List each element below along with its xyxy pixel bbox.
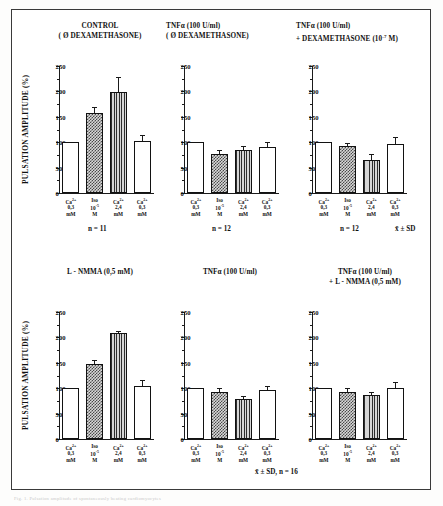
x-label-line-3: mM [232,211,256,217]
error-bar-cap [265,142,270,143]
x-label-line-1: Ca2+ [59,197,83,205]
x-axis [184,439,279,440]
x-axis-label-1: Iso10-5M [83,443,107,463]
bar [187,142,204,193]
panel-title-line: TNFα (100 U/ml) [290,268,440,278]
y-tick-minor [182,79,184,80]
y-tick-label: 150 [309,359,312,366]
x-axis-label-0: Ca2+0,3mM [184,197,208,217]
y-tick-label: 150 [309,113,312,120]
x-label-line-1: Ca2+ [383,197,407,205]
panel-title-line: + L - NMMA (0,5 mM) [290,278,440,288]
x-axis-label-0: Ca2+0,3mM [184,443,208,463]
x-axis-label-2: Ca2+2,4mM [360,443,384,463]
x-label-line-3: mM [360,211,384,217]
bar [235,150,252,193]
error-bar-cap [116,77,121,78]
x-axis-label-2: Ca2+2,4mM [107,197,131,217]
error-bar-cap [265,386,270,387]
x-axis-label-2: Ca2+2,4mM [232,197,256,217]
bar [339,146,356,193]
bar [211,392,228,439]
panel-title-panel-control: CONTROL( Ø DEXAMETHASONE) [30,22,170,41]
x-label-line-1: Ca2+ [312,443,336,451]
x-label-line-1: Ca2+ [107,197,131,205]
panel-title-panel-tnf-nodex: TNFα (100 U/ml)( Ø DEXAMETHASONE) [160,22,306,41]
y-tick-minor [57,104,59,105]
x-label-line-3: mM [184,211,208,217]
y-tick-label: 100 [309,139,312,146]
x-axis [59,193,154,194]
sample-size-panel-control: n = 11 [88,225,106,233]
y-tick-minor [310,180,312,181]
x-axis-label-3: Ca2+0,3mM [255,197,279,217]
error-bar-cap [369,392,374,393]
y-tick-label: 200 [56,88,59,95]
x-axis-label-0: Ca2+0,3mM [59,443,83,463]
y-axis [184,312,185,439]
y-tick-minor [57,401,59,402]
y-tick-minor [57,130,59,131]
y-tick-minor [310,130,312,131]
sample-size-panel-tnf-dex: n = 12 [340,225,359,233]
x-label-line-2: 10-5 [83,449,107,457]
plot-area-panel-tnf-nodex: 050100150200250Ca2+0,3mMIso10-5MCa2+2,4m… [184,66,279,193]
x-label-line-1: Ca2+ [184,443,208,451]
x-axis-label-1: Iso10-5M [83,197,107,217]
x-label-line-1: Ca2+ [255,197,279,205]
y-tick-minor [310,325,312,326]
bar [62,388,79,439]
plot-area-panel-tnf-lnmma: 050100150200250Ca2+0,3mMIso10-5MCa2+2,4m… [312,312,407,439]
y-axis [312,66,313,193]
x-label-line-3: M [336,211,360,217]
y-tick-minor [57,426,59,427]
x-label-line-1: Ca2+ [255,443,279,451]
x-label-line-1: Ca2+ [232,443,256,451]
x-label-line-1: Ca2+ [59,443,83,451]
y-tick-label: 0 [309,190,312,197]
x-axis-label-2: Ca2+2,4mM [107,443,131,463]
bar [315,142,332,193]
x-axis [184,193,279,194]
y-tick-minor [182,104,184,105]
y-tick-label: 50 [181,164,184,171]
bar [235,399,252,439]
panel-title-panel-lnmma: L - NMMA (0,5 mM) [30,268,170,278]
bar [363,160,380,193]
y-tick-label: 0 [181,190,184,197]
y-axis-label: PULSATION AMPLITUDE (%) [21,308,30,443]
plot-area-panel-tnf-alone: 050100150200250Ca2+0,3mMIso10-5MCa2+2,4m… [184,312,279,439]
y-tick-minor [310,401,312,402]
y-tick-minor [310,79,312,80]
error-bar [118,77,119,92]
x-label-line-3: mM [130,211,154,217]
panel-title-line: CONTROL [30,22,170,32]
y-tick-label: 0 [56,190,59,197]
error-bar-cap [92,107,97,108]
figure-frame: CONTROL( Ø DEXAMETHASONE)050100150200250… [11,9,431,490]
panel-title-line: TNFα (100 U/ml) [296,22,443,32]
x-label-line-1: Ca2+ [130,443,154,451]
x-label-line-3: mM [360,457,384,463]
x-label-line-3: mM [59,211,83,217]
y-tick-minor [310,104,312,105]
y-tick-minor [182,376,184,377]
x-axis-label-3: Ca2+0,3mM [130,443,154,463]
y-axis [59,66,60,193]
x-label-line-2: 10-5 [208,203,232,211]
bar [187,388,204,439]
x-axis-label-0: Ca2+0,3mM [59,197,83,217]
y-tick-minor [57,350,59,351]
x-label-line-3: mM [59,457,83,463]
bar [387,144,404,193]
x-label-line-3: mM [130,457,154,463]
x-label-line-3: M [336,457,360,463]
bar [387,388,404,439]
y-tick-label: 150 [181,113,184,120]
error-bar-cap [92,360,97,361]
x-label-line-1: Ca2+ [232,197,256,205]
figure-row-top: CONTROL( Ø DEXAMETHASONE)050100150200250… [12,16,430,256]
x-label-line-1: Ca2+ [360,443,384,451]
y-tick-label: 200 [56,334,59,341]
y-tick-minor [310,155,312,156]
